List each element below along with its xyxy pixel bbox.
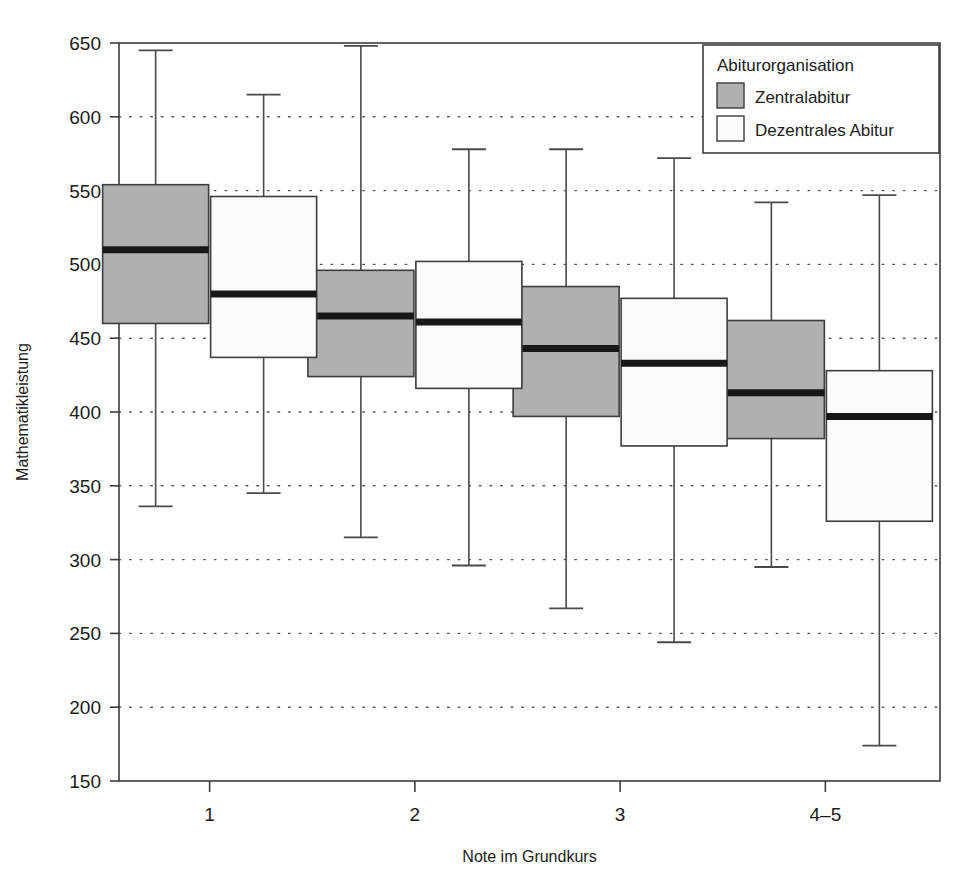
legend-label: Dezentrales Abitur <box>755 121 894 140</box>
x-tick-label: 2 <box>410 804 421 825</box>
legend-title: Abiturorganisation <box>717 56 854 75</box>
box-iqr <box>621 298 727 446</box>
x-axis-ticks: 1234–5 <box>204 781 841 825</box>
y-tick-label: 400 <box>69 402 101 423</box>
legend-swatch-zentralabitur <box>717 83 744 108</box>
y-axis-ticks: 150200250300350400450500550600650 <box>69 33 119 792</box>
y-tick-label: 350 <box>69 476 101 497</box>
y-tick-label: 450 <box>69 328 101 349</box>
y-tick-label: 550 <box>69 181 101 202</box>
y-tick-label: 650 <box>69 33 101 54</box>
y-tick-label: 250 <box>69 623 101 644</box>
boxplot-chart: 150200250300350400450500550600650 1234–5… <box>0 0 957 890</box>
boxplot-dezentral-note-4 <box>826 195 932 746</box>
x-axis-title: Note im Grundkurs <box>462 848 596 865</box>
legend-swatch-dezentral <box>717 116 744 141</box>
x-tick-label: 3 <box>615 804 626 825</box>
boxplot-zentralabitur-note-2 <box>308 46 414 538</box>
boxplot-zentralabitur-note-3 <box>513 149 619 608</box>
box-iqr <box>826 371 932 522</box>
boxplot-dezentral-note-2 <box>416 149 522 565</box>
box-iqr <box>211 197 317 358</box>
axis-titles: Note im GrundkursMathematikleistung <box>14 343 597 865</box>
box-iqr <box>103 185 209 324</box>
y-tick-label: 150 <box>69 771 101 792</box>
y-tick-label: 600 <box>69 107 101 128</box>
x-tick-label: 1 <box>204 804 215 825</box>
legend: AbiturorganisationZentralabiturDezentral… <box>703 45 939 153</box>
boxplot-dezentral-note-1 <box>211 95 317 494</box>
boxplot-dezentral-note-3 <box>621 158 727 642</box>
x-tick-label: 4–5 <box>810 804 842 825</box>
box-iqr <box>308 270 414 376</box>
y-tick-label: 500 <box>69 254 101 275</box>
box-iqr <box>718 320 824 438</box>
y-axis-title: Mathematikleistung <box>14 343 31 481</box>
y-tick-label: 200 <box>69 697 101 718</box>
y-tick-label: 300 <box>69 550 101 571</box>
boxplot-zentralabitur-note-4 <box>718 202 824 567</box>
legend-label: Zentralabitur <box>755 88 851 107</box>
chart-figure: 150200250300350400450500550600650 1234–5… <box>0 0 957 890</box>
